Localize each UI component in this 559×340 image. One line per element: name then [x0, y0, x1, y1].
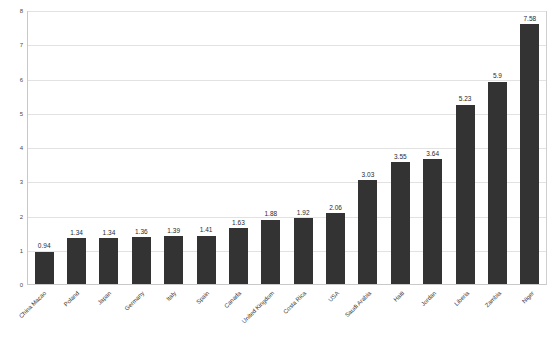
bar-value-label: 1.34 — [103, 230, 116, 237]
bar[interactable] — [294, 218, 313, 284]
bar-value-label: 7.58 — [523, 16, 536, 23]
bar-group[interactable]: 1.41 — [190, 11, 222, 284]
bar[interactable] — [358, 180, 377, 284]
bar-group[interactable]: 1.36 — [125, 11, 157, 284]
bar-value-label: 3.64 — [426, 151, 439, 158]
bar-value-label: 1.39 — [167, 228, 180, 235]
plot-area: 0.941.341.341.361.391.411.631.881.922.06… — [27, 11, 547, 285]
bar-value-label: 1.36 — [135, 229, 148, 236]
x-axis-tick: Spain — [190, 286, 223, 340]
bar-value-label: 1.34 — [70, 230, 83, 237]
x-axis-tick-label: Costa Rica — [283, 290, 308, 315]
bar[interactable] — [456, 105, 475, 284]
bar-value-label: 1.92 — [297, 210, 310, 217]
bar[interactable] — [35, 252, 54, 284]
bar[interactable] — [197, 236, 216, 284]
bar[interactable] — [520, 24, 539, 284]
x-axis-tick: Japan — [92, 286, 125, 340]
y-axis-tick-label: 0 — [3, 282, 23, 288]
bar-group[interactable]: 1.34 — [93, 11, 125, 284]
bar-group[interactable]: 1.39 — [158, 11, 190, 284]
bar[interactable] — [67, 238, 86, 284]
y-axis-tick-label: 6 — [3, 77, 23, 83]
bar-value-label: 1.88 — [264, 211, 277, 218]
bar[interactable] — [164, 236, 183, 284]
bar-group[interactable]: 2.06 — [319, 11, 351, 284]
bar-group[interactable]: 5.23 — [449, 11, 481, 284]
x-axis-tick: Costa Rica — [287, 286, 320, 340]
y-axis: 012345678 — [0, 0, 26, 285]
bar-value-label: 3.55 — [394, 154, 407, 161]
y-axis-tick-label: 7 — [3, 42, 23, 48]
bar-chart: 012345678 0.941.341.341.361.391.411.631.… — [0, 0, 559, 340]
bar-value-label: 5.23 — [459, 96, 472, 103]
bar[interactable] — [99, 238, 118, 284]
bar-group[interactable]: 3.03 — [352, 11, 384, 284]
x-axis-tick: Haiti — [385, 286, 418, 340]
x-axis-tick: Saudi Arabia — [352, 286, 385, 340]
x-axis-tick: Zambia — [482, 286, 515, 340]
x-axis-tick: United Kingdom — [255, 286, 288, 340]
y-axis-tick-label: 3 — [3, 179, 23, 185]
x-axis-tick-label: Zambia — [484, 290, 502, 308]
bar-value-label: 1.41 — [200, 227, 213, 234]
y-axis-tick-label: 2 — [3, 214, 23, 220]
x-axis-tick-label: China Macao — [18, 290, 47, 319]
x-axis-tick-label: Italy — [165, 290, 177, 302]
y-axis-tick-label: 4 — [3, 145, 23, 151]
bar[interactable] — [423, 159, 442, 284]
x-axis-tick: China Macao — [27, 286, 60, 340]
bar-group[interactable]: 1.34 — [60, 11, 92, 284]
bar-group[interactable]: 0.94 — [28, 11, 60, 284]
x-axis-tick: Germany — [125, 286, 158, 340]
bar[interactable] — [326, 213, 345, 284]
x-axis: China MacaoPolandJapanGermanyItalySpainC… — [27, 286, 547, 340]
x-axis-tick-label: Poland — [63, 290, 80, 307]
bar-group[interactable]: 7.58 — [514, 11, 546, 284]
x-axis-tick-label: Japan — [97, 290, 113, 306]
bar-value-label: 5.9 — [493, 73, 502, 80]
bar-value-label: 1.63 — [232, 220, 245, 227]
bar-group[interactable]: 1.92 — [287, 11, 319, 284]
x-axis-tick: Jordan — [417, 286, 450, 340]
bar-group[interactable]: 3.64 — [417, 11, 449, 284]
x-axis-tick: Niger — [515, 286, 548, 340]
x-axis-tick-label: Germany — [123, 290, 145, 312]
bar-group[interactable]: 5.9 — [481, 11, 513, 284]
bar-group[interactable]: 1.88 — [255, 11, 287, 284]
bar-group[interactable]: 1.63 — [222, 11, 254, 284]
bar[interactable] — [488, 82, 507, 284]
bar[interactable] — [132, 237, 151, 284]
y-axis-tick-label: 8 — [3, 8, 23, 14]
bar[interactable] — [391, 162, 410, 284]
bars-layer: 0.941.341.341.361.391.411.631.881.922.06… — [28, 11, 546, 284]
x-axis-tick: Liberia — [450, 286, 483, 340]
x-axis-tick-label: USA — [327, 290, 340, 303]
bar-value-label: 0.94 — [38, 243, 51, 250]
x-axis-tick-label: Niger — [521, 290, 535, 304]
x-axis-tick-label: Jordan — [420, 290, 437, 307]
x-axis-tick-label: Canada — [223, 290, 242, 309]
x-axis-tick: Italy — [157, 286, 190, 340]
bar[interactable] — [229, 228, 248, 284]
y-axis-tick-label: 1 — [3, 248, 23, 254]
y-axis-tick-label: 5 — [3, 111, 23, 117]
x-axis-tick-label: Spain — [195, 290, 210, 305]
x-axis-tick-label: Haiti — [392, 290, 405, 303]
bar-value-label: 3.03 — [362, 172, 375, 179]
x-axis-tick-label: Liberia — [453, 290, 470, 307]
bar-value-label: 2.06 — [329, 205, 342, 212]
x-axis-tick: Poland — [60, 286, 93, 340]
bar-group[interactable]: 3.55 — [384, 11, 416, 284]
bar[interactable] — [261, 220, 280, 284]
